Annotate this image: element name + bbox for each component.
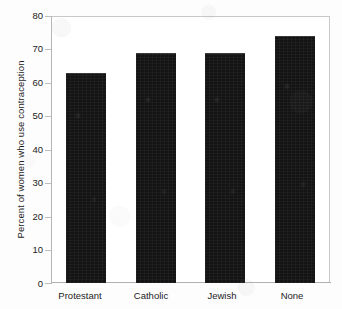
bar-jewish	[205, 53, 245, 283]
bar-protestant	[66, 73, 106, 283]
x-label-none: None	[244, 290, 340, 301]
bar-catholic	[136, 53, 176, 283]
bar-none	[275, 36, 315, 283]
y-tick-label-80: 80	[17, 11, 43, 21]
y-tick-label-50: 50	[17, 111, 43, 121]
y-tick-label-30: 30	[17, 178, 43, 188]
y-tick-label-60: 60	[17, 78, 43, 88]
y-tick-label-40: 40	[17, 145, 43, 155]
bar-chart: Percent of women who use contraception 8…	[0, 0, 342, 309]
y-tick-label-0: 0	[17, 279, 43, 289]
y-tick-label-70: 70	[17, 44, 43, 54]
y-tick-label-20: 20	[17, 212, 43, 222]
y-tick-label-10: 10	[17, 245, 43, 255]
